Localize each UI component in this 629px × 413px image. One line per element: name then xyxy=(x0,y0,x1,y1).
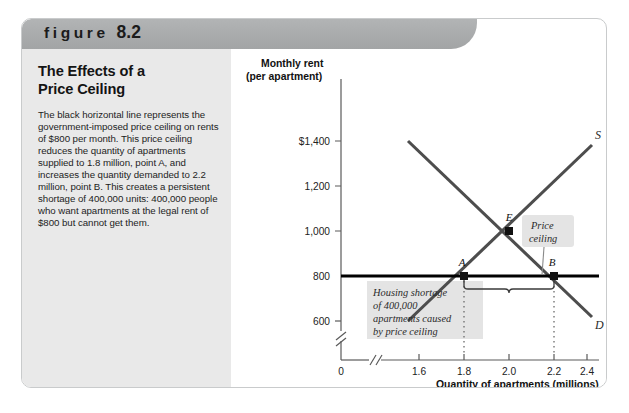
demand-curve-label: D xyxy=(594,318,604,332)
price-ceiling-label-line1: Price xyxy=(530,220,554,231)
y-axis-ticks xyxy=(335,141,341,321)
shortage-annotation-line3: apartments caused xyxy=(373,313,452,324)
point-label-b: B xyxy=(549,256,556,268)
point-marker-b xyxy=(550,272,558,280)
x-axis-ticks xyxy=(419,354,587,360)
x-tick-label-2-0: 2.0 xyxy=(502,366,516,377)
x-axis-break-mark xyxy=(370,355,382,365)
chart-svg: $1,400 1,200 1,000 800 600 Monthly rent … xyxy=(231,49,607,388)
supply-curve-label: S xyxy=(595,128,601,142)
figure-title-line2: Price Ceiling xyxy=(38,81,125,97)
shortage-annotation-line2: of 400,000 xyxy=(373,300,418,311)
x-tick-label-1-6: 1.6 xyxy=(412,366,426,377)
shortage-annotation-line1: Housing shortage xyxy=(372,287,448,298)
point-marker-e xyxy=(505,227,513,235)
point-label-e: E xyxy=(505,211,513,223)
point-label-a: A xyxy=(458,256,466,268)
caption-panel: The Effects of a Price Ceiling The black… xyxy=(22,49,231,387)
price-ceiling-label-line2: ceiling xyxy=(529,233,557,244)
y-axis-title-line1: Monthly rent xyxy=(261,58,324,69)
figure-word: figure xyxy=(44,24,117,41)
y-tick-label-600: 600 xyxy=(313,316,330,327)
figure-header-band: figure 8.2 xyxy=(22,19,477,49)
figure-card: figure 8.2 The Effects of a Price Ceilin… xyxy=(21,18,607,388)
chart-plot-area: $1,400 1,200 1,000 800 600 Monthly rent … xyxy=(231,49,606,387)
figure-number-label: figure 8.2 xyxy=(44,22,141,43)
figure-title-line1: The Effects of a xyxy=(38,63,145,79)
y-axis-title-line2: (per apartment) xyxy=(246,71,322,82)
y-tick-label-1400: $1,400 xyxy=(299,136,330,147)
figure-title: The Effects of a Price Ceiling xyxy=(38,63,218,98)
y-tick-label-800: 800 xyxy=(313,271,330,282)
figure-caption-text: The black horizontal line represents the… xyxy=(38,109,220,229)
figure-number-value: 8.2 xyxy=(117,22,141,42)
y-tick-label-1000: 1,000 xyxy=(305,226,331,237)
origin-label: 0 xyxy=(338,366,344,377)
shortage-annotation-line4: by price ceiling xyxy=(373,326,438,337)
x-tick-label-2-2: 2.2 xyxy=(547,366,561,377)
x-tick-label-2-4: 2.4 xyxy=(580,366,594,377)
x-axis-title: Quantity of apartments (millions) xyxy=(436,379,599,388)
point-marker-a xyxy=(460,272,468,280)
y-tick-label-1200: 1,200 xyxy=(305,181,331,192)
x-tick-label-1-8: 1.8 xyxy=(457,366,471,377)
